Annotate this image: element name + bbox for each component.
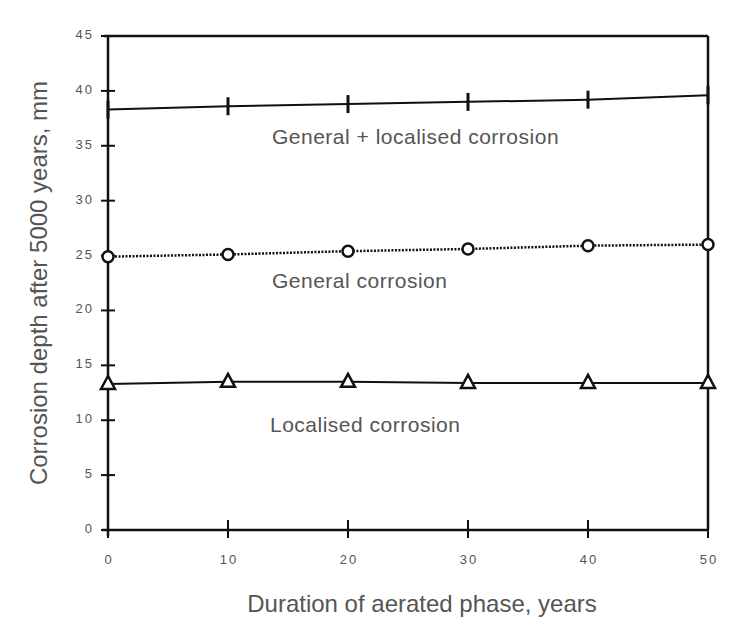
y-tick-label: 40 — [76, 82, 94, 97]
circle-marker-icon — [103, 251, 114, 262]
y-tick-label: 30 — [76, 192, 94, 207]
series-label: General + localised corrosion — [272, 125, 559, 148]
triangle-marker-icon — [701, 375, 715, 388]
series-plus — [108, 86, 708, 118]
y-tick-label: 5 — [85, 466, 94, 481]
x-tick-label: 30 — [460, 552, 478, 567]
circle-marker-icon — [343, 246, 354, 257]
series-line — [108, 382, 708, 384]
circle-marker-icon — [703, 239, 714, 250]
x-axis-ticks: 01020304050 — [104, 520, 718, 567]
circle-marker-icon — [223, 249, 234, 260]
y-tick-label: 35 — [76, 137, 94, 152]
y-tick-label: 20 — [76, 301, 94, 316]
series-label: General corrosion — [272, 269, 447, 292]
x-tick-label: 50 — [700, 552, 718, 567]
triangle-marker-icon — [581, 375, 595, 388]
y-axis-title: Corrosion depth after 5000 years, mm — [25, 81, 52, 485]
y-tick-label: 25 — [76, 247, 94, 262]
y-tick-label: 0 — [85, 521, 94, 536]
chart: 051015202530354045 01020304050 General +… — [0, 0, 737, 640]
y-tick-label: 15 — [76, 356, 94, 371]
series-line — [108, 245, 708, 257]
x-tick-label: 10 — [220, 552, 238, 567]
series-labels: General + localised corrosionGeneral cor… — [270, 125, 559, 436]
x-tick-label: 0 — [104, 552, 113, 567]
series-triangle — [101, 374, 715, 389]
y-tick-label: 45 — [76, 27, 94, 42]
circle-marker-icon — [463, 243, 474, 254]
circle-marker-icon — [583, 240, 594, 251]
series-label: Localised corrosion — [270, 413, 460, 436]
triangle-marker-icon — [341, 374, 355, 387]
triangle-marker-icon — [101, 376, 115, 389]
y-tick-label: 10 — [76, 411, 94, 426]
triangle-marker-icon — [221, 374, 235, 387]
x-tick-label: 40 — [580, 552, 598, 567]
series-line — [108, 95, 708, 109]
x-axis-title: Duration of aerated phase, years — [247, 590, 597, 617]
x-tick-label: 20 — [340, 552, 358, 567]
series-circle — [103, 239, 714, 262]
triangle-marker-icon — [461, 375, 475, 388]
